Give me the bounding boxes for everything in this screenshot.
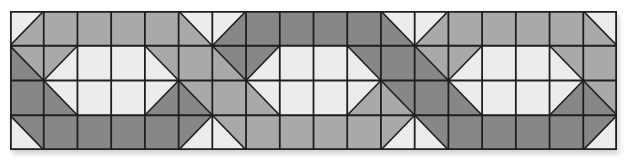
quilt-cell bbox=[381, 81, 415, 116]
quilt-cell bbox=[516, 11, 550, 46]
quilt-cell bbox=[314, 46, 348, 81]
quilt-cell bbox=[550, 115, 584, 150]
quilt-cell bbox=[347, 115, 381, 150]
quilt-cell bbox=[10, 46, 44, 81]
quilt-cell bbox=[550, 11, 584, 46]
quilt-cell bbox=[583, 11, 617, 46]
quilt-cell bbox=[111, 115, 145, 150]
quilt-cell bbox=[280, 46, 314, 81]
quilt-pattern-grid bbox=[10, 11, 617, 150]
quilt-cell bbox=[145, 11, 179, 46]
quilt-cell bbox=[77, 46, 111, 81]
quilt-cell bbox=[550, 81, 584, 116]
quilt-svg bbox=[10, 11, 617, 150]
quilt-cell bbox=[381, 46, 415, 81]
quilt-cell bbox=[347, 81, 381, 116]
quilt-cell bbox=[381, 11, 415, 46]
quilt-cell bbox=[415, 81, 449, 116]
quilt-cell bbox=[550, 46, 584, 81]
quilt-cell bbox=[145, 46, 179, 81]
quilt-cell bbox=[516, 46, 550, 81]
quilt-cell bbox=[246, 11, 280, 46]
quilt-cell bbox=[482, 115, 516, 150]
quilt-cell bbox=[44, 46, 78, 81]
quilt-cell bbox=[246, 46, 280, 81]
quilt-cell bbox=[77, 81, 111, 116]
quilt-cell bbox=[179, 81, 213, 116]
quilt-cell bbox=[448, 115, 482, 150]
quilt-cell bbox=[145, 81, 179, 116]
quilt-cell bbox=[77, 11, 111, 46]
quilt-cell bbox=[111, 11, 145, 46]
quilt-cell bbox=[111, 46, 145, 81]
quilt-cell bbox=[10, 81, 44, 116]
quilt-cell bbox=[482, 46, 516, 81]
quilt-cell bbox=[212, 115, 246, 150]
quilt-cell bbox=[212, 11, 246, 46]
quilt-cell bbox=[246, 115, 280, 150]
quilt-cell bbox=[516, 115, 550, 150]
quilt-cell bbox=[583, 46, 617, 81]
quilt-cell bbox=[280, 11, 314, 46]
quilt-cell bbox=[212, 46, 246, 81]
quilt-cell bbox=[482, 81, 516, 116]
quilt-cell bbox=[280, 81, 314, 116]
quilt-cell bbox=[415, 115, 449, 150]
quilt-cell bbox=[448, 46, 482, 81]
quilt-cell bbox=[44, 81, 78, 116]
quilt-cell bbox=[482, 11, 516, 46]
quilt-cell bbox=[44, 115, 78, 150]
quilt-cell bbox=[212, 81, 246, 116]
quilt-cell bbox=[111, 81, 145, 116]
quilt-cell bbox=[179, 115, 213, 150]
quilt-cell bbox=[179, 46, 213, 81]
quilt-cell bbox=[583, 115, 617, 150]
quilt-cell bbox=[246, 81, 280, 116]
quilt-cell bbox=[44, 11, 78, 46]
quilt-cell bbox=[347, 46, 381, 81]
quilt-cell bbox=[448, 11, 482, 46]
quilt-cell bbox=[381, 115, 415, 150]
quilt-cell bbox=[448, 81, 482, 116]
quilt-cell bbox=[10, 115, 44, 150]
quilt-cell bbox=[516, 81, 550, 116]
quilt-cell bbox=[314, 115, 348, 150]
quilt-cell bbox=[77, 115, 111, 150]
quilt-cell bbox=[347, 11, 381, 46]
quilt-cell bbox=[415, 46, 449, 81]
quilt-cell bbox=[10, 11, 44, 46]
quilt-cell bbox=[179, 11, 213, 46]
quilt-cell bbox=[145, 115, 179, 150]
quilt-cell bbox=[415, 11, 449, 46]
quilt-cell bbox=[314, 11, 348, 46]
quilt-cell bbox=[583, 81, 617, 116]
quilt-cell bbox=[314, 81, 348, 116]
quilt-cell bbox=[280, 115, 314, 150]
